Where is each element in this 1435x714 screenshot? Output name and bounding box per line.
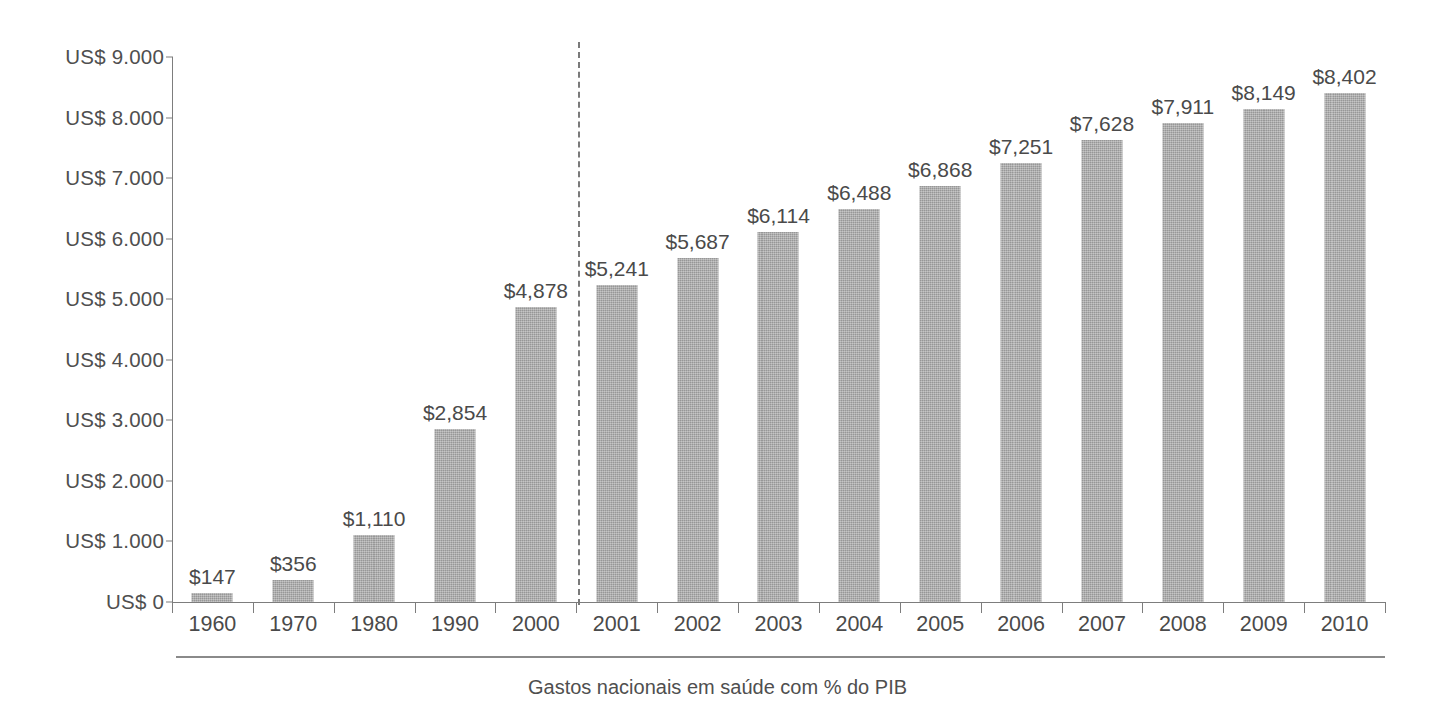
- y-axis-tick-label: US$ 4.000: [65, 348, 164, 372]
- bar-group: $7,628: [1062, 57, 1143, 602]
- x-axis-category-label: 2005: [900, 612, 981, 637]
- bar-group: $6,114: [738, 57, 819, 602]
- y-axis-tick-label: US$ 1.000: [65, 529, 164, 553]
- bar-group: $8,402: [1304, 57, 1385, 602]
- chart-caption: Gastos nacionais em saúde com % do PIB: [0, 676, 1435, 699]
- bar-value-label: $1,110: [343, 507, 406, 531]
- bars-layer: $147$356$1,110$2,854$4,878$5,241$5,687$6…: [172, 57, 1385, 602]
- x-axis-category-label: 1970: [253, 612, 334, 637]
- bar[interactable]: [839, 209, 880, 602]
- bar[interactable]: [677, 258, 718, 602]
- x-axis-category-label: 2010: [1304, 612, 1385, 637]
- bar-group: $4,878: [495, 57, 576, 602]
- bar-group: $2,854: [415, 57, 496, 602]
- bar-value-label: $8,149: [1232, 81, 1296, 105]
- bar[interactable]: [515, 307, 556, 602]
- bar-value-label: $7,911: [1151, 95, 1214, 119]
- bar-group: $8,149: [1223, 57, 1304, 602]
- bar-group: $147: [172, 57, 253, 602]
- y-axis-tick-label: US$ 0: [106, 590, 164, 614]
- bar[interactable]: [273, 580, 314, 602]
- bar-value-label: $4,878: [504, 279, 568, 303]
- x-axis-category-label: 2001: [576, 612, 657, 637]
- bar-group: $356: [253, 57, 334, 602]
- x-axis-category-label: 2008: [1142, 612, 1223, 637]
- bar-group: $7,251: [981, 57, 1062, 602]
- x-axis-tick-mark: [1385, 603, 1386, 613]
- bar[interactable]: [435, 429, 476, 602]
- y-axis-tick-label: US$ 3.000: [65, 408, 164, 432]
- bar[interactable]: [192, 593, 233, 602]
- x-axis-category-label: 2007: [1062, 612, 1143, 637]
- x-axis-category-label: 1990: [415, 612, 496, 637]
- x-axis-category-label: 1980: [334, 612, 415, 637]
- bar[interactable]: [1081, 140, 1122, 602]
- bar-value-label: $5,687: [665, 230, 729, 254]
- bar[interactable]: [1001, 163, 1042, 602]
- bar[interactable]: [920, 186, 961, 602]
- bar[interactable]: [1162, 123, 1203, 602]
- bar[interactable]: [758, 232, 799, 602]
- bar-group: $1,110: [334, 57, 415, 602]
- bar-value-label: $356: [270, 552, 317, 576]
- y-axis-tick-label: US$ 6.000: [65, 227, 164, 251]
- decade-to-annual-divider: [578, 42, 580, 605]
- bar-value-label: $7,251: [989, 135, 1053, 159]
- bar-group: $6,488: [819, 57, 900, 602]
- bar[interactable]: [1243, 109, 1284, 602]
- x-axis-category-label: 2002: [657, 612, 738, 637]
- bar-group: $6,868: [900, 57, 981, 602]
- x-axis-category-labels: 1960197019801990200020012002200320042005…: [172, 612, 1385, 646]
- bar-group: $5,241: [576, 57, 657, 602]
- y-axis-tick-label: US$ 8.000: [65, 106, 164, 130]
- bar-chart: US$ 0US$ 1.000US$ 2.000US$ 3.000US$ 4.00…: [0, 0, 1435, 714]
- x-axis-category-label: 2009: [1223, 612, 1304, 637]
- bar-value-label: $8,402: [1312, 65, 1376, 89]
- bar[interactable]: [1324, 93, 1365, 602]
- x-axis-category-label: 1960: [172, 612, 253, 637]
- bar-value-label: $6,114: [747, 204, 810, 228]
- bar-value-label: $2,854: [423, 401, 487, 425]
- x-axis-category-label: 2000: [495, 612, 576, 637]
- bar-value-label: $5,241: [585, 257, 649, 281]
- bar-value-label: $6,868: [908, 158, 972, 182]
- y-axis-tick-label: US$ 5.000: [65, 287, 164, 311]
- x-axis-category-label: 2004: [819, 612, 900, 637]
- bar-group: $5,687: [657, 57, 738, 602]
- bar-value-label: $6,488: [827, 181, 891, 205]
- bar-value-label: $7,628: [1070, 112, 1134, 136]
- x-axis-category-label: 2006: [981, 612, 1062, 637]
- y-axis-tick-label: US$ 7.000: [65, 166, 164, 190]
- bar-value-label: $147: [189, 565, 236, 589]
- y-axis-tick-label: US$ 9.000: [65, 45, 164, 69]
- bar-group: $7,911: [1142, 57, 1223, 602]
- x-axis-category-label: 2003: [738, 612, 819, 637]
- y-axis-tick-label: US$ 2.000: [65, 469, 164, 493]
- bar[interactable]: [354, 535, 395, 602]
- bar[interactable]: [596, 285, 637, 602]
- x-axis-line: [172, 602, 1386, 603]
- caption-divider-rule: [176, 656, 1385, 658]
